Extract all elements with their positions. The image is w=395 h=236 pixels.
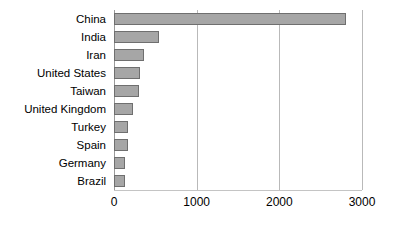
category-label: Germany	[0, 157, 106, 169]
bar	[114, 103, 133, 115]
bar	[114, 175, 125, 187]
category-label: Spain	[0, 139, 106, 151]
bar	[114, 157, 125, 169]
bar	[114, 49, 144, 61]
category-label: Taiwan	[0, 85, 106, 97]
bar	[114, 85, 139, 97]
gridline-2000	[279, 10, 280, 190]
bar	[114, 31, 159, 43]
x-tick-label: 1000	[183, 195, 210, 209]
value-axis: 0100020003000	[114, 195, 362, 215]
category-label: Turkey	[0, 121, 106, 133]
x-tick-label: 2000	[266, 195, 293, 209]
x-axis-line	[114, 190, 362, 191]
gridline-3000	[362, 10, 363, 190]
category-label: India	[0, 31, 106, 43]
bar	[114, 67, 140, 79]
bar	[114, 13, 346, 25]
bar	[114, 121, 128, 133]
category-label: United Kingdom	[0, 103, 106, 115]
category-label: United States	[0, 67, 106, 79]
bar-chart: ChinaIndiaIranUnited StatesTaiwanUnited …	[0, 0, 395, 236]
x-tick-label: 0	[111, 195, 118, 209]
category-label: Iran	[0, 49, 106, 61]
category-label: Brazil	[0, 175, 106, 187]
bar	[114, 139, 128, 151]
gridline-1000	[197, 10, 198, 190]
plot-area	[114, 10, 362, 190]
category-axis: ChinaIndiaIranUnited StatesTaiwanUnited …	[0, 10, 110, 190]
x-tick-label: 3000	[349, 195, 376, 209]
category-label: China	[0, 13, 106, 25]
